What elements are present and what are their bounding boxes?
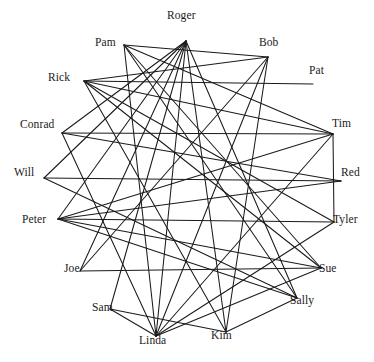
edge-tim-tyler: [333, 134, 334, 222]
edge-peter-sue: [58, 219, 321, 268]
node-label-peter[interactable]: Peter: [22, 214, 46, 226]
edge-roger-linda: [156, 41, 186, 336]
network-diagram: RogerBobPatTimRedTylerSueSallyKimLindaSa…: [0, 0, 374, 362]
edge-will-red: [44, 178, 341, 181]
edge-linda-bob: [156, 57, 268, 336]
node-label-roger[interactable]: Roger: [167, 10, 196, 22]
edge-peter-red: [58, 181, 341, 219]
node-label-sue[interactable]: Sue: [319, 263, 337, 275]
node-label-conrad[interactable]: Conrad: [20, 119, 54, 131]
edge-roger-kim: [186, 41, 226, 332]
node-label-kim[interactable]: Kim: [211, 330, 232, 342]
node-label-joe[interactable]: Joe: [64, 263, 80, 275]
edge-rick-tyler: [84, 81, 334, 222]
edge-rick-tim: [84, 81, 333, 134]
edge-peter-tim: [58, 134, 333, 219]
node-label-red[interactable]: Red: [341, 167, 360, 179]
node-label-will[interactable]: Will: [14, 167, 34, 179]
node-label-rick[interactable]: Rick: [48, 72, 70, 84]
node-label-linda[interactable]: Linda: [139, 335, 166, 347]
node-label-tyler[interactable]: Tyler: [333, 214, 358, 226]
node-label-sam[interactable]: Sam: [92, 302, 113, 314]
edge-roger-joe: [80, 41, 186, 271]
edge-peter-sally: [58, 219, 297, 298]
node-label-sally[interactable]: Sally: [290, 295, 314, 307]
network-edges-canvas: [0, 0, 374, 362]
edge-conrad-tim: [62, 133, 333, 134]
edge-roger-conrad: [62, 41, 186, 133]
edge-linda-tyler: [156, 222, 334, 336]
edge-rick-pat: [84, 81, 313, 84]
edge-layer: [44, 41, 341, 336]
node-label-bob[interactable]: Bob: [259, 37, 278, 49]
node-label-pat[interactable]: Pat: [309, 65, 324, 77]
node-label-pam[interactable]: Pam: [95, 37, 116, 49]
node-label-tim[interactable]: Tim: [332, 118, 351, 130]
edge-roger-will: [44, 41, 186, 178]
edge-peter-tyler: [58, 219, 334, 222]
edge-pam-bob: [124, 45, 268, 57]
edge-roger-peter: [58, 41, 186, 219]
